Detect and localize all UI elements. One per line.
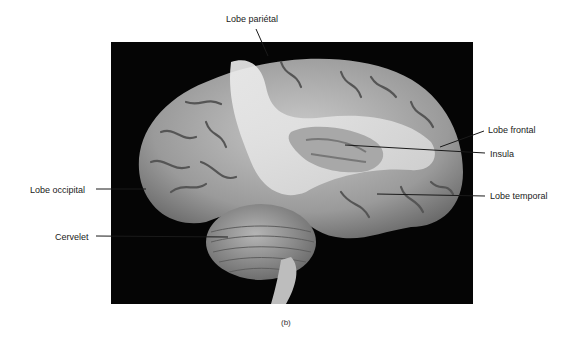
figure-caption: (b) bbox=[281, 318, 291, 327]
label-lobe-temporal: Lobe temporal bbox=[490, 191, 548, 201]
label-lobe-occipital: Lobe occipital bbox=[30, 185, 85, 195]
label-insula: Insula bbox=[490, 149, 514, 159]
label-cervelet: Cervelet bbox=[55, 232, 89, 242]
brain-photograph bbox=[111, 42, 473, 304]
label-lobe-frontal: Lobe frontal bbox=[488, 125, 536, 135]
brain-illustration bbox=[111, 42, 473, 304]
label-lobe-parietal: Lobe pariétal bbox=[226, 14, 278, 24]
